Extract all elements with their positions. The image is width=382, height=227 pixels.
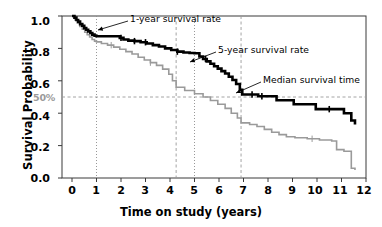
arrow-one-year [98, 21, 128, 31]
y-tick-label-0_2: 0.2 [16, 141, 50, 154]
x-tick-label-5: 5 [184, 184, 204, 197]
x-tick-label-10: 10 [305, 184, 325, 197]
x-axis-label: Time on study (years) [0, 205, 382, 219]
reference-lines [62, 16, 366, 178]
x-tick-label-7: 7 [233, 184, 253, 197]
x-tick-label-12: 12 [354, 184, 374, 197]
curve-lower-curve [72, 16, 355, 170]
x-tick-label-2: 2 [111, 184, 131, 197]
x-tick-label-6: 6 [209, 184, 229, 197]
x-tick-label-4: 4 [160, 184, 180, 197]
annotation-five-year-survival-rate: 5-year survival rate [218, 44, 309, 55]
median-probability-label: 50% [33, 92, 55, 103]
annotation-one-year-survival-rate: 1-year survival rate [130, 13, 221, 24]
y-tick-label-0_0: 0.0 [16, 172, 50, 185]
x-tick-label-1: 1 [86, 184, 106, 197]
axis-ticks [58, 16, 366, 182]
y-tick-label-0_4: 0.4 [16, 110, 50, 123]
y-tick-label-0_6: 0.6 [16, 78, 50, 91]
x-tick-label-0: 0 [62, 184, 82, 197]
x-tick-label-9: 9 [282, 184, 302, 197]
y-tick-label-1_0: 1.0 [16, 15, 50, 28]
annotation-median-survival-time: Median survival time [263, 74, 360, 85]
curve-upper-curve [72, 16, 355, 125]
y-tick-label-0_8: 0.8 [16, 46, 50, 59]
x-tick-label-11: 11 [330, 184, 350, 197]
x-tick-label-3: 3 [135, 184, 155, 197]
x-tick-label-8: 8 [258, 184, 278, 197]
survival-plot-figure: Survival Probability Time on study (year… [0, 0, 382, 227]
survival-curves [72, 16, 355, 170]
